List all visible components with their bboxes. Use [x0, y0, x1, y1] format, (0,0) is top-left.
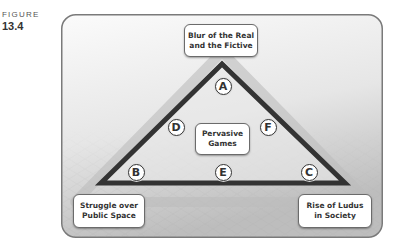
bottom-left-concept-box: Struggle over Public Space — [73, 194, 145, 228]
node-e: E — [215, 164, 232, 181]
node-f: F — [260, 119, 277, 136]
top-concept-box: Blur of the Real and the Fictive — [184, 24, 258, 57]
node-a: A — [215, 78, 232, 95]
node-b: B — [128, 164, 145, 181]
figure-number: 13.4 — [2, 20, 23, 32]
bottom-right-concept-box: Rise of Ludus in Society — [298, 194, 372, 228]
figure-label: FIGURE — [2, 10, 39, 19]
center-concept-box: Pervasive Games — [195, 123, 250, 155]
node-c: C — [301, 164, 318, 181]
diagram-panel: Blur of the Real and the Fictive Pervasi… — [61, 14, 383, 238]
node-d: D — [168, 119, 185, 136]
